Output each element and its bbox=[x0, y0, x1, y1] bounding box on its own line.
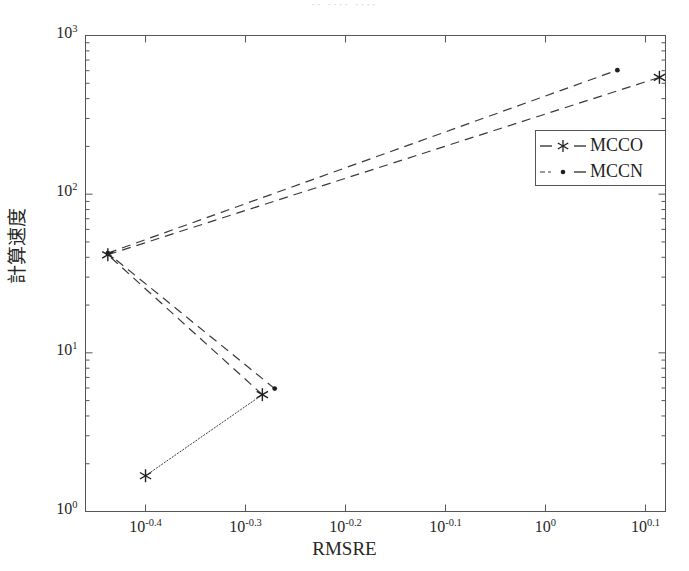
x-tick-label-0: 10-0.4 bbox=[101, 518, 191, 536]
y-tick-label-2: 102 bbox=[0, 182, 78, 200]
legend[interactable]: MCCO MCCN bbox=[535, 130, 666, 186]
marker-MCCO-3 bbox=[654, 71, 665, 84]
plot-area bbox=[0, 0, 689, 571]
legend-entry-mcco[interactable]: MCCO bbox=[536, 132, 667, 159]
axes-frame bbox=[86, 36, 666, 512]
series-MCCO-segment-0 bbox=[146, 395, 263, 476]
y-axis-label: 計算速度 bbox=[8, 191, 27, 301]
x-axis-label: RMSRE bbox=[0, 538, 689, 560]
x-tick-label-4: 100 bbox=[500, 518, 590, 536]
marker-MCCO-0 bbox=[140, 469, 151, 482]
marker-MCCN-1 bbox=[105, 251, 110, 256]
legend-marker-asterisk-icon bbox=[536, 135, 590, 157]
legend-label-mcco: MCCO bbox=[590, 135, 643, 156]
legend-label-mccn: MCCN bbox=[590, 161, 643, 182]
x-tick-label-2: 10-0.2 bbox=[301, 518, 391, 536]
y-axis-ticks bbox=[86, 36, 666, 512]
y-tick-label-0: 100 bbox=[0, 500, 78, 518]
marker-MCCN-0 bbox=[272, 386, 277, 391]
x-tick-label-1: 10-0.3 bbox=[201, 518, 291, 536]
legend-marker-dot-icon bbox=[536, 161, 590, 183]
marker-MCCN-2 bbox=[615, 68, 620, 73]
x-tick-label-3: 10-0.1 bbox=[401, 518, 491, 536]
y-tick-label-3: 103 bbox=[0, 24, 78, 42]
x-axis-ticks bbox=[146, 36, 646, 512]
series-MCCN-segment-0 bbox=[108, 253, 275, 388]
x-tick-label-5: 100.1 bbox=[600, 518, 689, 536]
marker-MCCO-1 bbox=[257, 388, 268, 401]
figure-canvas: ·· ···· ···· 計算速度 RMSRE 10-0.410-0.310-0… bbox=[0, 0, 689, 571]
y-tick-label-1: 101 bbox=[0, 341, 78, 359]
legend-entry-mccn[interactable]: MCCN bbox=[536, 158, 667, 185]
series-MCCO-segment-1 bbox=[108, 255, 263, 395]
